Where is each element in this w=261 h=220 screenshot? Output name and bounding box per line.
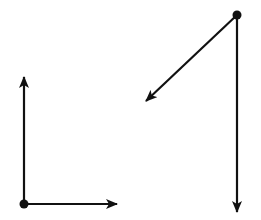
split-vectors — [146, 11, 242, 213]
diagonal-down-left-vector — [146, 15, 237, 101]
orthogonal-axes — [20, 77, 118, 209]
orthogonal-axes-origin-dot — [20, 200, 29, 209]
vector-diagram — [0, 0, 261, 220]
split-vectors-origin-dot — [233, 11, 242, 20]
